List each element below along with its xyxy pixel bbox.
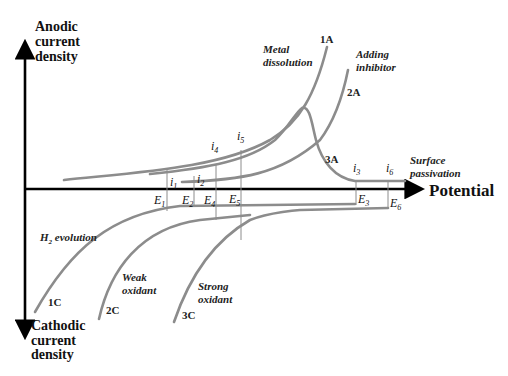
curve-id-2C: 2C (106, 304, 120, 316)
label-i6: i6 (386, 161, 393, 177)
label-i1: i1 (170, 175, 177, 191)
curve-id-3A: 3A (325, 153, 339, 165)
label-E4: E4 (203, 193, 215, 209)
curve-id-2A: 2A (347, 86, 361, 98)
label-E2: E2 (181, 193, 193, 209)
label-E3: E3 (357, 192, 369, 208)
desc-3C: Strong oxidant (198, 280, 233, 305)
label-i4: i4 (211, 139, 218, 155)
evans-diagram: Anodic current density Cathodic current … (0, 0, 508, 376)
y-axis-top-label: Anodic current density (35, 19, 83, 64)
curve-3A (150, 108, 405, 181)
curve-id-3C: 3C (182, 309, 196, 321)
label-i5: i5 (237, 129, 244, 145)
curve-id-1C: 1C (48, 296, 62, 308)
y-axis-bottom-label: Cathodic current density (31, 318, 89, 362)
label-i2: i2 (197, 172, 204, 188)
label-E6: E6 (389, 196, 401, 212)
x-axis-label: Potential (429, 181, 494, 200)
desc-2A: Adding inhibitor (355, 48, 396, 73)
curve-id-1A: 1A (320, 33, 334, 45)
label-i3: i3 (353, 161, 360, 177)
desc-3A: Surface passivation (409, 154, 461, 179)
label-E5: E5 (228, 192, 240, 208)
desc-2C: Weak oxidant (122, 271, 157, 296)
label-E1: E1 (153, 193, 165, 209)
desc-1A: Metal dissolution (262, 43, 313, 68)
